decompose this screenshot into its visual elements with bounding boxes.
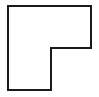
- figure-canvas: [0, 0, 99, 97]
- l-shape-figure: [0, 0, 99, 97]
